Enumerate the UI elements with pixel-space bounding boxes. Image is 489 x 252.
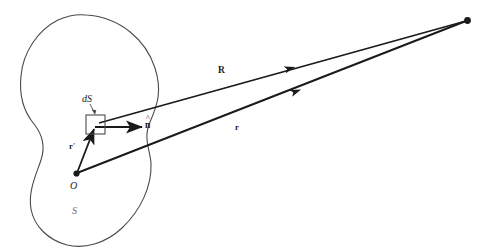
- surface-boundary-outline: [21, 15, 159, 247]
- field-point-dot: [464, 17, 471, 24]
- surface-integral-diagram: dS ^ n r′ O S R r: [0, 0, 489, 252]
- diagram-canvas: [0, 0, 489, 252]
- ds-label-leader-arrow: [92, 109, 97, 114]
- vector-r-line: [77, 21, 466, 173]
- normal-hat-accent: ^: [146, 114, 150, 123]
- origin-point-dot: [73, 170, 79, 176]
- vector-R-line: [99, 21, 466, 123]
- surface-element-square: [86, 115, 105, 134]
